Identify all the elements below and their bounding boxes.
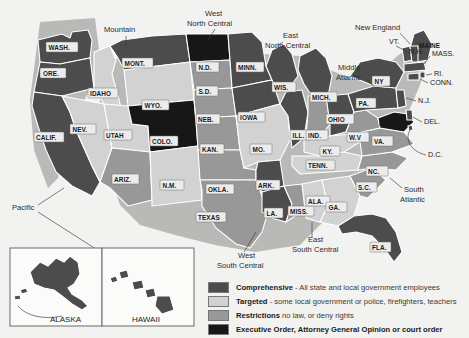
legend-swatch-executive-order: [208, 324, 229, 335]
svg-text:N.M.: N.M.: [163, 182, 177, 189]
state-label-TN: TENN.: [306, 160, 335, 170]
state-CT[interactable]: [408, 73, 419, 80]
callout-label-MA: MASS.: [432, 49, 454, 58]
legend-row-targeted: Targeted - some local government or poli…: [208, 295, 466, 308]
state-WY[interactable]: [124, 62, 194, 106]
svg-text:NEB.: NEB.: [198, 116, 214, 123]
state-label-GA: GA.: [326, 202, 347, 212]
state-label-WA: WASH.: [46, 42, 78, 52]
state-DE[interactable]: [406, 110, 413, 120]
legend: Comprehensive - All state and local gove…: [208, 281, 466, 337]
state-label-SD: S.D.: [196, 86, 218, 96]
state-ND[interactable]: [186, 34, 230, 62]
svg-text:MD.: MD.: [379, 120, 391, 127]
region-label-east-south-central-1: East: [308, 235, 324, 244]
region-label-south-atlantic-1: South: [404, 185, 424, 194]
state-label-CO: COLO.: [150, 136, 178, 146]
callout-label-CT: CONN.: [430, 78, 453, 87]
legend-swatch-targeted: [208, 296, 229, 307]
region-label-west-south-central-1: West: [238, 251, 256, 260]
svg-text:CALIF.: CALIF.: [36, 134, 57, 141]
map-page: WASH. ORE. CALIF. NEV. IDAHO MONT. WYO. …: [0, 0, 469, 338]
state-label-IN: IND.: [306, 130, 328, 140]
svg-text:MICH.: MICH.: [312, 94, 331, 101]
state-label-IA: IOWA: [238, 112, 265, 122]
svg-text:ALA.: ALA.: [308, 198, 323, 205]
svg-text:MO.: MO.: [253, 146, 265, 153]
state-FL[interactable]: [338, 214, 402, 262]
region-label-middle-atlantic-1: Middle: [338, 63, 360, 72]
svg-text:WIS.: WIS.: [274, 84, 288, 91]
state-label-PA: PA.: [356, 98, 376, 108]
legend-swatch-comprehensive: [208, 282, 229, 293]
svg-text:NY: NY: [375, 78, 385, 85]
state-label-NE: NEB.: [196, 114, 220, 124]
state-label-ND: N.D.: [196, 62, 219, 72]
legend-text-restrictions: Restrictions no law, or deny rights: [236, 311, 354, 320]
svg-text:ILL.: ILL.: [293, 132, 305, 139]
state-label-CA: CALIF.: [34, 132, 64, 142]
callout-label-VT: VT.: [389, 37, 399, 46]
legend-term-targeted: Targeted: [236, 297, 268, 306]
svg-text:OKLA.: OKLA.: [208, 186, 229, 193]
svg-text:FLA.: FLA.: [372, 244, 387, 251]
state-label-TX: TEXAS: [196, 212, 226, 222]
state-label-OH: OHIO: [326, 114, 354, 124]
state-label-MT: MONT.: [122, 58, 153, 68]
svg-text:S.D.: S.D.: [199, 88, 212, 95]
legend-desc-targeted: - some local government or police, firef…: [268, 297, 457, 306]
region-label-new-england: New England: [355, 23, 400, 32]
svg-text:OHIO: OHIO: [328, 116, 345, 123]
legend-text-executive-order: Executive Order, Attorney General Opinio…: [236, 325, 442, 334]
svg-text:UTAH: UTAH: [106, 132, 124, 139]
svg-text:IOWA: IOWA: [240, 114, 258, 121]
state-label-LA: LA.: [264, 208, 283, 218]
legend-desc-restrictions: no law, or deny rights: [280, 311, 354, 320]
region-label-west-south-central-2: South Central: [217, 261, 264, 270]
legend-row-restrictions: Restrictions no law, or deny rights: [208, 309, 466, 322]
legend-text-comprehensive: Comprehensive - All state and local gove…: [236, 283, 440, 292]
svg-text:GA.: GA.: [329, 204, 341, 211]
state-MA[interactable]: [404, 62, 426, 72]
legend-text-targeted: Targeted - some local government or poli…: [236, 297, 457, 306]
region-label-east-south-central-2: South Central: [292, 245, 339, 254]
state-label-UT: UTAH: [104, 130, 132, 140]
legend-desc-comprehensive: - All state and local government employe…: [293, 283, 440, 292]
legend-term-restrictions: Restrictions: [236, 311, 280, 320]
state-label-AZ: ARIZ.: [112, 174, 139, 184]
svg-text:TEXAS: TEXAS: [198, 214, 220, 221]
state-label-MN: MINN.: [236, 62, 264, 72]
inset-label-hawaii: HAWAII: [132, 315, 160, 324]
region-label-pacific: Pacific: [12, 203, 35, 212]
region-label-east-north-central-2: North Central: [265, 41, 310, 50]
legend-term-executive-order: Executive Order, Attorney General Opinio…: [236, 325, 442, 334]
svg-text:MONT.: MONT.: [125, 60, 146, 67]
state-label-MO: MO.: [250, 144, 272, 154]
region-label-east-north-central-1: East: [283, 31, 299, 40]
state-RI[interactable]: [420, 72, 425, 78]
state-label-WY: WYO.: [142, 100, 169, 110]
svg-text:N.D.: N.D.: [199, 64, 212, 71]
state-DC[interactable]: [408, 125, 413, 131]
legend-row-comprehensive: Comprehensive - All state and local gove…: [208, 281, 466, 294]
state-NM[interactable]: [150, 146, 202, 206]
state-label-MD: MD.: [379, 120, 391, 127]
inset-label-alaska: ALASKA: [50, 315, 82, 324]
state-label-AR: ARK.: [256, 180, 280, 190]
svg-text:MISS.: MISS.: [290, 208, 308, 215]
state-label-KS: KAN.: [200, 144, 224, 154]
state-NJ[interactable]: [396, 90, 406, 108]
svg-text:IDAHO: IDAHO: [90, 90, 111, 97]
svg-text:ORE.: ORE.: [43, 70, 59, 77]
svg-text:NEV.: NEV.: [73, 126, 88, 133]
svg-text:COLO.: COLO.: [152, 138, 173, 145]
state-label-SC: S.C.: [356, 182, 377, 192]
state-label-OR: ORE.: [40, 68, 66, 78]
svg-text:LA.: LA.: [267, 210, 278, 217]
state-label-ID: IDAHO: [88, 88, 118, 98]
legend-row-executive-order: Executive Order, Attorney General Opinio…: [208, 323, 466, 336]
callout-label-RI: RI.: [434, 69, 443, 78]
legend-swatch-restrictions: [208, 310, 229, 321]
state-label-VA: VA.: [372, 136, 393, 146]
state-label-KY: KY.: [320, 146, 340, 156]
